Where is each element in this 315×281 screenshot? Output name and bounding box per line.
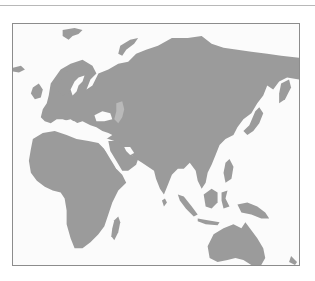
iceland-landmass xyxy=(13,66,25,73)
borneo-landmass xyxy=(204,189,218,209)
new-zealand-landmass xyxy=(289,256,297,265)
madagascar-landmass xyxy=(111,216,120,240)
new-guinea-landmass xyxy=(237,203,269,219)
sumatra-landmass xyxy=(178,195,198,217)
world-map-eastern-hemisphere xyxy=(13,24,299,265)
java-landmass xyxy=(198,218,220,225)
philippines-landmass xyxy=(224,159,234,183)
top-divider-line xyxy=(0,5,315,6)
kamchatka-landmass xyxy=(279,80,291,104)
sulawesi-landmass xyxy=(222,191,230,209)
sri-lanka-landmass xyxy=(162,199,167,207)
british-isles-landmass xyxy=(31,84,43,100)
svalbard-landmass xyxy=(63,28,83,40)
novaya-zemlya-landmass xyxy=(118,38,138,56)
map-frame xyxy=(12,23,300,266)
australia-landmass xyxy=(208,222,266,265)
